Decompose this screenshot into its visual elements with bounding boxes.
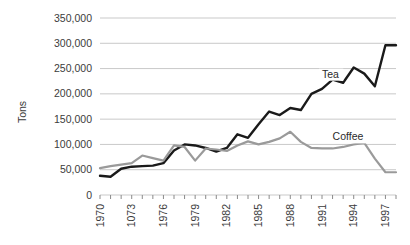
x-axis-tick-label: 1997 (379, 204, 391, 228)
x-axis-tick-label: 1073 (125, 204, 137, 228)
line-chart: 050,000100,000150,000200,000250,000300,0… (0, 0, 410, 245)
x-axis-tick-label: 1976 (157, 204, 169, 228)
x-axis-tick-label: 1985 (252, 204, 264, 228)
y-axis-tick-label: 350,000 (54, 12, 92, 24)
x-axis-tick-marks (100, 195, 396, 199)
x-axis-tick-label: 1970 (94, 204, 106, 228)
x-axis-tick-label: 1988 (284, 204, 296, 228)
y-axis-tick-label: 50,000 (60, 163, 92, 175)
y-axis-tick-label: 200,000 (54, 87, 92, 99)
data-series-group (100, 45, 396, 176)
series-label-coffee: Coffee (333, 130, 364, 142)
x-axis-tick-label: 1994 (347, 204, 359, 228)
y-axis-tick-labels: 050,000100,000150,000200,000250,000300,0… (54, 12, 92, 201)
y-axis-tick-label: 250,000 (54, 62, 92, 74)
gridline-group (100, 18, 396, 195)
y-axis-tick-label: 150,000 (54, 113, 92, 125)
x-axis-tick-label: 1979 (189, 204, 201, 228)
y-axis-tick-label: 300,000 (54, 37, 92, 49)
y-axis-tick-label: 0 (86, 189, 92, 201)
chart-container: 050,000100,000150,000200,000250,000300,0… (0, 0, 410, 245)
x-axis-tick-labels: 1970107319761979198219851988199119941997 (94, 204, 391, 228)
x-axis-tick-label: 1982 (220, 204, 232, 228)
x-axis-tick-label: 1991 (316, 204, 328, 228)
y-axis-title: Tons (16, 101, 28, 123)
y-axis-tick-label: 100,000 (54, 138, 92, 150)
series-label-tea: Tea (322, 68, 339, 80)
